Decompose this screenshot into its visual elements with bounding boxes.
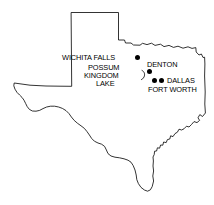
city-marker-dallas <box>159 78 164 83</box>
texas-boundary-path <box>14 13 206 192</box>
city-marker-fort-worth <box>152 78 157 83</box>
city-marker-wichita-falls <box>135 55 140 60</box>
texas-map-figure: WICHITA FALLS POSSUM KINGDOM LAKE DENTON… <box>0 0 214 205</box>
map-label-fort-worth: FORT WORTH <box>148 86 197 94</box>
texas-state-outline <box>0 0 214 205</box>
city-marker-denton <box>147 69 152 74</box>
map-label-lake: LAKE <box>96 80 115 88</box>
map-label-denton: DENTON <box>147 61 177 69</box>
map-label-wichita-falls: WICHITA FALLS <box>62 54 115 62</box>
map-label-dallas: DALLAS <box>167 77 195 85</box>
